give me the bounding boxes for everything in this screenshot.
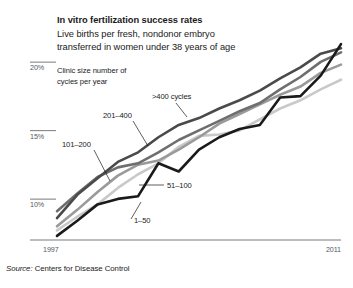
series-label-51-100: 51–100: [167, 181, 192, 190]
ivf-success-rate-figure: In vitro fertilization success rates Liv…: [0, 0, 353, 288]
series-line-1-50: [57, 80, 341, 231]
x-axis-label-start: 1997: [43, 245, 59, 254]
y-axis-tick-label: 10%: [30, 200, 45, 209]
series-label-101-200: 101–200: [62, 140, 91, 149]
source-prefix: Source:: [6, 264, 33, 273]
source-line: Source: Centers for Disease Control: [6, 264, 130, 273]
series-label--400-cycles: >400 cycles: [152, 92, 192, 101]
y-axis-tick-label: 20%: [30, 63, 45, 72]
source-text: Centers for Disease Control: [35, 264, 130, 273]
y-axis-ticks: 10%15%20%: [30, 62, 56, 209]
y-axis-tick-label: 15%: [30, 132, 45, 141]
x-axis-label-end: 2011: [326, 245, 341, 254]
series-line-101-200: [57, 52, 341, 211]
line-chart-svg: 10%15%20% >400 cycles201–400101–20051–10…: [0, 0, 353, 288]
series-label-1-50: 1–50: [134, 216, 151, 225]
series-line--400-cycles: [57, 44, 341, 236]
series-lines-group: [57, 44, 341, 236]
series-label-201-400: 201–400: [103, 111, 132, 120]
series-line-201-400: [57, 48, 341, 218]
